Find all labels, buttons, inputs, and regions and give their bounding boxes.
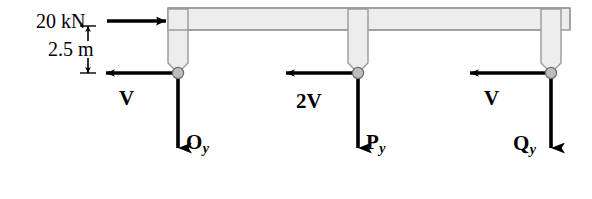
shear-label-P: 2V <box>296 91 322 112</box>
reaction-label-Q: Qy <box>513 133 536 157</box>
column-right <box>541 9 561 73</box>
dimension-label: 2.5 m <box>48 39 94 59</box>
applied-load-label: 20 kN <box>36 11 85 31</box>
reaction-label-O: Oy <box>186 132 209 156</box>
pin-joint-Q <box>545 67 556 78</box>
shear-label-Q: V <box>484 88 499 109</box>
shear-label-O: V <box>119 88 134 109</box>
reaction-label-Q-base: Q <box>513 131 529 155</box>
reaction-label-P: Py <box>366 132 386 156</box>
reaction-label-O-base: O <box>186 130 202 154</box>
frame-structure <box>168 8 570 73</box>
reaction-label-P-subscript: y <box>379 141 385 156</box>
reaction-label-Q-subscript: y <box>530 142 536 157</box>
column-middle <box>348 9 368 73</box>
reaction-label-P-base: P <box>366 130 379 154</box>
pin-joint-O <box>172 67 183 78</box>
column-left <box>168 9 188 73</box>
pin-joint-P <box>352 67 363 78</box>
support-O <box>106 67 184 148</box>
figure-canvas: 20 kN 2.5 m V Oy 2V Py V Qy <box>0 0 592 199</box>
reaction-label-O-subscript: y <box>203 141 209 156</box>
top-beam <box>168 8 570 30</box>
